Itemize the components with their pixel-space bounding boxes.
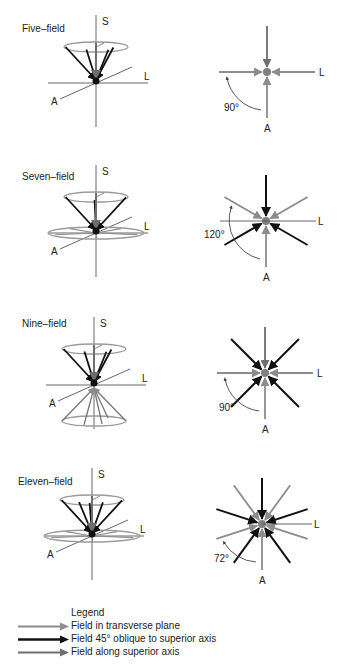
axis-label-a: A: [263, 272, 270, 283]
panel-eleven-field: Eleven–field SLA LA72°: [18, 468, 320, 586]
isocenter: [91, 380, 98, 387]
axis-label-a: A: [259, 575, 266, 586]
angle-label: 120°: [204, 229, 225, 240]
oblique-field-arrow: [231, 339, 261, 369]
oblique-field-arrow: [234, 528, 259, 563]
isocenter: [261, 369, 269, 377]
axis-label-s: S: [102, 166, 109, 177]
isocenter: [262, 217, 270, 225]
axis-label-a: A: [262, 424, 269, 435]
axis-label-a: A: [51, 96, 58, 107]
field-arrangement-diagram: Five–field SLA LA90° Seven–field SLA LA1…: [0, 0, 341, 664]
oblique-field-arrow: [231, 377, 261, 407]
panel-nine-field: Nine–field SLA LA90°: [22, 317, 323, 435]
cone-radius: [94, 345, 102, 349]
arrow-oblique-icon: [18, 635, 70, 644]
panel-seven-field: Seven–field SLA LA120°: [22, 165, 324, 283]
oblique-field-arrow: [269, 339, 299, 369]
panel-five-field: Five–field SLA LA90°: [22, 15, 325, 134]
transverse-field-arrow: [265, 485, 290, 520]
cone-radius: [96, 193, 104, 197]
oblique-field-arrow: [216, 509, 257, 522]
angle-label: 90°: [224, 102, 239, 113]
panel-title: Eleven–field: [18, 476, 72, 487]
legend-item-transverse: Field in transverse plane: [18, 620, 338, 633]
axis-label-a: A: [264, 123, 271, 134]
axis-label-a: A: [51, 246, 58, 257]
transverse-field: [66, 532, 92, 536]
inferior-field: [94, 388, 102, 424]
axis-label-a: A: [47, 549, 54, 560]
legend-title: Legend: [71, 607, 104, 618]
cone-radius: [92, 496, 100, 500]
axis-label-l: L: [142, 373, 148, 384]
three-d-view: SLA: [46, 317, 148, 429]
isocenter: [89, 531, 96, 538]
transverse-field-arrow: [216, 526, 257, 539]
panel-title: Seven–field: [22, 171, 74, 182]
angle-label: 90°: [219, 402, 234, 413]
axis-label-s: S: [102, 16, 109, 27]
arrow-transverse-icon: [18, 622, 70, 631]
isocenter: [258, 520, 266, 528]
axis-label-l: L: [144, 221, 150, 232]
transverse-field-arrow: [267, 526, 308, 539]
axis-label-l: L: [140, 524, 146, 535]
transverse-field: [70, 229, 96, 233]
axis-label-l: L: [319, 67, 325, 78]
beam-eye-view: LA90°: [217, 327, 323, 435]
isocenter: [93, 228, 100, 235]
arrow-superior-icon: [18, 648, 70, 657]
legend-label: Field along superior axis: [71, 646, 179, 657]
transverse-field-arrow: [270, 197, 307, 219]
angle-label: 72°: [214, 553, 229, 564]
oblique-field-arrow: [267, 509, 308, 522]
isocenter: [263, 68, 271, 76]
beam-eye-view: LA120°: [204, 175, 324, 283]
axis-label-l: L: [144, 71, 150, 82]
panel-title: Nine–field: [22, 318, 66, 329]
beam-eye-view: LA72°: [214, 478, 320, 586]
beam-eye-view: LA90°: [219, 26, 325, 134]
axis-label-l: L: [318, 216, 324, 227]
legend-item-superior: Field along superior axis: [18, 646, 338, 659]
legend-label: Field 45° oblique to superior axis: [71, 633, 216, 644]
inferior-field: [94, 388, 108, 418]
axis-label-l: L: [317, 368, 323, 379]
oblique-field-arrow: [265, 528, 290, 563]
axis-label-a: A: [49, 398, 56, 409]
legend-label: Field in transverse plane: [71, 620, 180, 631]
axis-label-s: S: [100, 318, 107, 329]
axis-label-s: S: [98, 469, 105, 480]
cone-radius: [96, 43, 104, 47]
transverse-field-arrow: [224, 197, 261, 219]
oblique-field-arrow: [269, 377, 299, 407]
transverse-field-arrow: [234, 485, 259, 520]
axis-label-l: L: [314, 519, 320, 530]
panel-title: Five–field: [22, 23, 65, 34]
legend-item-oblique: Field 45° oblique to superior axis: [18, 633, 338, 646]
oblique-field-arrow: [270, 224, 307, 246]
isocenter: [93, 78, 100, 85]
